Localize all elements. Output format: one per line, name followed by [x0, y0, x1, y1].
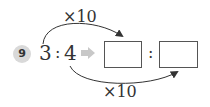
answer-box-right[interactable] [159, 41, 198, 68]
problem-number-badge: 9 [13, 45, 31, 63]
ratio-left-term: 3 [39, 43, 52, 63]
ratio-colon: : [55, 43, 60, 63]
right-arrow-icon [81, 47, 95, 59]
top-multiplier-label: ×10 [63, 9, 97, 25]
ratio-right-term: 4 [64, 43, 77, 63]
answer-box-left[interactable] [104, 41, 142, 68]
bottom-multiplier-label: ×10 [103, 84, 137, 100]
bottom-curve-arrow [70, 66, 177, 83]
answer-colon: : [148, 43, 153, 63]
